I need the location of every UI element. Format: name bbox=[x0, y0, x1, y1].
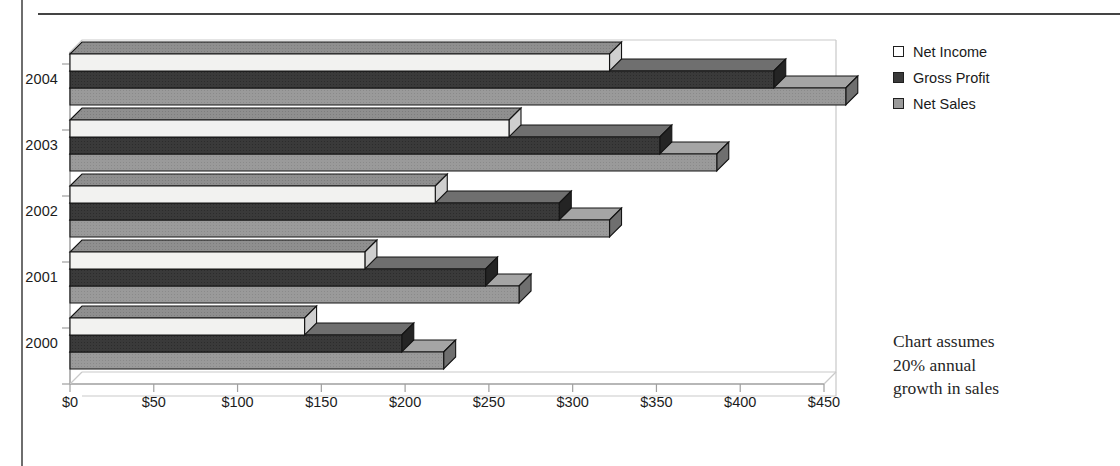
y-axis-category-label: 2004 bbox=[4, 71, 58, 87]
x-axis-tick-label: $400 bbox=[712, 394, 768, 410]
bar-face bbox=[70, 42, 622, 54]
chart-legend: Net Income Gross Profit Net Sales bbox=[893, 40, 1103, 118]
bar-face bbox=[70, 120, 509, 137]
x-axis-tick-label: $250 bbox=[461, 394, 517, 410]
bar-face bbox=[70, 137, 660, 154]
legend-label-net-income: Net Income bbox=[913, 44, 987, 60]
page-top-rule bbox=[38, 13, 1120, 15]
legend-item-net-income[interactable]: Net Income bbox=[893, 40, 1103, 63]
x-axis-tick-label: $200 bbox=[377, 394, 433, 410]
legend-swatch-net-income bbox=[893, 46, 904, 57]
y-axis-category-label: 2000 bbox=[4, 335, 58, 351]
x-axis-tick-label: $100 bbox=[210, 394, 266, 410]
bar-face bbox=[70, 220, 610, 237]
bar-face bbox=[70, 71, 774, 88]
bar-face bbox=[70, 203, 559, 220]
bar-face bbox=[70, 54, 610, 71]
bar-face bbox=[70, 352, 444, 369]
x-axis-tick-label: $450 bbox=[796, 394, 852, 410]
bar-group-2001 bbox=[70, 240, 531, 303]
bar-face bbox=[70, 252, 365, 269]
y-axis-category-label: 2001 bbox=[4, 269, 58, 285]
bar-group-2004 bbox=[70, 42, 858, 105]
bar-face bbox=[70, 286, 519, 303]
x-axis-tick-label: $150 bbox=[293, 394, 349, 410]
bar-group-2000 bbox=[70, 306, 456, 369]
bar-face bbox=[70, 186, 435, 203]
bar-face bbox=[70, 318, 305, 335]
legend-item-gross-profit[interactable]: Gross Profit bbox=[893, 66, 1103, 89]
x-axis-tick-label: $300 bbox=[545, 394, 601, 410]
chart-plot-svg bbox=[0, 24, 900, 424]
annotation-line-1: Chart assumes bbox=[893, 330, 1108, 354]
y-axis-ticks bbox=[62, 64, 70, 384]
bar-face bbox=[70, 174, 447, 186]
chart-annotation: Chart assumes 20% annual growth in sales bbox=[893, 330, 1108, 401]
legend-swatch-gross-profit bbox=[893, 72, 904, 83]
bar-face bbox=[70, 335, 402, 352]
bar-face bbox=[70, 240, 377, 252]
x-axis-tick-label: $350 bbox=[628, 394, 684, 410]
bar-face bbox=[70, 108, 521, 120]
annotation-line-2: 20% annual bbox=[893, 354, 1108, 378]
y-axis-category-label: 2002 bbox=[4, 203, 58, 219]
x-axis-ticks bbox=[70, 384, 824, 392]
x-axis-tick-label: $0 bbox=[42, 394, 98, 410]
bar-group-2003 bbox=[70, 108, 729, 171]
annotation-line-3: growth in sales bbox=[893, 377, 1108, 401]
bar-face bbox=[70, 154, 717, 171]
bar-groups bbox=[70, 42, 858, 369]
legend-item-net-sales[interactable]: Net Sales bbox=[893, 92, 1103, 115]
bar-group-2002 bbox=[70, 174, 622, 237]
bar-face bbox=[70, 306, 317, 318]
bar-face bbox=[70, 269, 486, 286]
legend-label-gross-profit: Gross Profit bbox=[913, 70, 990, 86]
bar-face bbox=[70, 88, 846, 105]
y-axis-category-label: 2003 bbox=[4, 137, 58, 153]
x-axis-tick-label: $50 bbox=[126, 394, 182, 410]
legend-swatch-net-sales bbox=[893, 98, 904, 109]
legend-label-net-sales: Net Sales bbox=[913, 96, 976, 112]
